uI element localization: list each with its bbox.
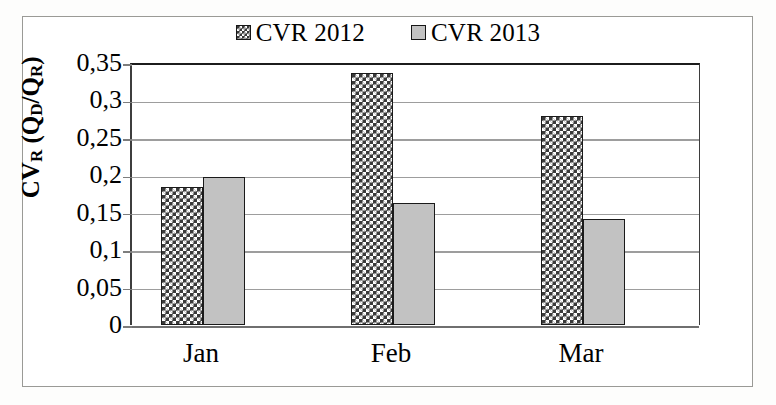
y-tick-label-0,1: 0,1 (50, 237, 122, 263)
y-tick-label-0: 0 (50, 312, 122, 338)
y-tick-label-0,15: 0,15 (50, 200, 122, 226)
legend-swatch-checker-hatch-icon (236, 25, 251, 40)
legend-label-cvr-2012: CVR 2012 (256, 20, 365, 45)
x-axis-label-feb: Feb (296, 337, 486, 369)
chart-legend: CVR 2012 CVR 2013 (0, 20, 776, 45)
bar-mar-cvr-2012[interactable] (541, 116, 583, 325)
figure-root: CVR 2012 CVR 2013 CVR (QD/QR) 00,050,10,… (0, 0, 776, 405)
x-axis-label-jan: Jan (106, 337, 296, 369)
y-tick-mark-0,3 (123, 102, 132, 103)
y-axis-title: CVR (QD/QR) (17, 7, 48, 247)
legend-swatch-solid-gray-icon (411, 25, 426, 40)
y-tick-mark-0,15 (123, 214, 132, 215)
bar-mar-cvr-2013[interactable] (583, 219, 625, 325)
y-tick-mark-0 (123, 326, 132, 327)
plot-area (130, 63, 700, 325)
bar-jan-cvr-2013[interactable] (203, 177, 245, 325)
y-tick-mark-0,05 (123, 289, 132, 290)
y-tick-label-0,2: 0,2 (50, 162, 122, 188)
y-tick-mark-0,1 (123, 251, 132, 252)
legend-label-cvr-2013: CVR 2013 (431, 20, 540, 45)
y-axis-title-text: CVR (QD/QR) (17, 57, 44, 199)
y-tick-mark-0,35 (123, 64, 132, 65)
bar-feb-cvr-2012[interactable] (351, 73, 393, 325)
legend-entry-cvr-2012[interactable]: CVR 2012 (236, 20, 365, 45)
y-tick-label-0,25: 0,25 (50, 125, 122, 151)
gridline-0 (132, 326, 699, 328)
y-tick-label-0,3: 0,3 (50, 87, 122, 113)
bar-feb-cvr-2013[interactable] (393, 203, 435, 325)
bars-layer (132, 65, 699, 325)
y-tick-label-0,35: 0,35 (50, 50, 122, 76)
y-axis-tick-labels: 00,050,10,150,20,250,30,35 (46, 63, 122, 325)
legend-entry-cvr-2013[interactable]: CVR 2013 (411, 20, 540, 45)
x-axis-label-mar: Mar (486, 337, 676, 369)
bar-jan-cvr-2012[interactable] (161, 187, 203, 325)
y-tick-mark-0,25 (123, 139, 132, 140)
x-axis-category-labels: JanFebMar (130, 337, 700, 377)
y-tick-mark-0,2 (123, 177, 132, 178)
y-tick-label-0,05: 0,05 (50, 275, 122, 301)
